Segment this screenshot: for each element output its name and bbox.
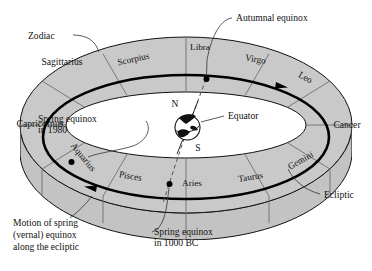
label-equator: Equator: [228, 110, 259, 121]
label-spring-equinox-1000bc-line1: Spring equinox: [154, 226, 213, 237]
autumnal-equinox-point: [204, 76, 210, 82]
label-capricornus: Capricornus: [17, 118, 64, 129]
spring-equinox-1000bc-point: [167, 181, 173, 187]
label-ecliptic: Ecliptic: [324, 189, 354, 200]
label-autumnal-equinox: Autumnal equinox: [236, 12, 308, 23]
caption-line-2: (vernal) equinox: [13, 229, 77, 241]
spring-equinox-1980-point: [69, 159, 75, 165]
label-spring-equinox-1000bc-line2: in 1000 BC: [154, 237, 198, 248]
caption-line-3: along the ecliptic: [13, 241, 79, 252]
label-aries: Aries: [182, 178, 202, 188]
label-cancer: Cancer: [333, 119, 361, 130]
label-north-pole: N: [172, 99, 179, 109]
zodiac-diagram-svg: Zodiac Autumnal equinox Equator Ecliptic…: [0, 0, 372, 271]
label-south-pole: S: [195, 143, 200, 153]
label-zodiac: Zodiac: [28, 30, 55, 41]
label-libra: Libra: [190, 42, 210, 52]
label-sagittarius: Sagittarius: [41, 56, 82, 67]
caption-line-1: Motion of spring: [13, 217, 78, 228]
zodiac-diagram: Zodiac Autumnal equinox Equator Ecliptic…: [0, 0, 372, 271]
leader-zodiac: [73, 35, 99, 52]
